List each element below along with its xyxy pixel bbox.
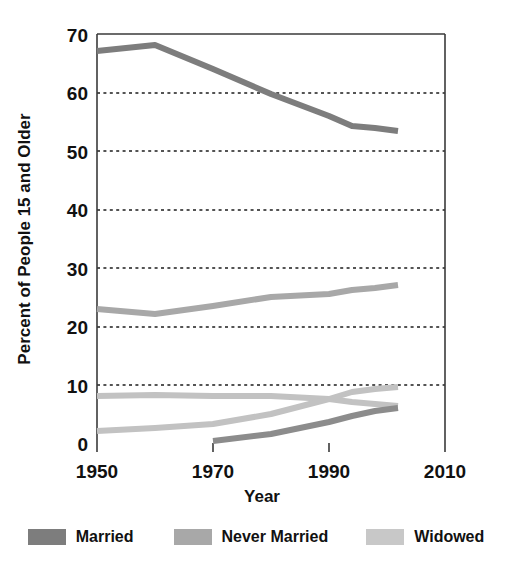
- legend-swatch-never-married: [174, 529, 212, 545]
- legend-swatch-married: [28, 529, 66, 545]
- y-tick-label: 50: [67, 142, 88, 163]
- y-axis-title: Percent of People 15 and Older: [15, 113, 34, 365]
- y-tick-label: 60: [67, 83, 88, 104]
- legend-item-married: Married: [28, 528, 134, 546]
- series-line-widowed: [97, 395, 398, 406]
- x-axis-ticks: [97, 443, 445, 452]
- legend-swatch-widowed: [366, 529, 404, 545]
- y-tick-label: 20: [67, 317, 88, 338]
- y-axis-tick-labels: 70 60 50 40 30 20 10 0: [67, 25, 88, 455]
- x-tick-label: 1950: [76, 461, 118, 482]
- series-line-married: [97, 45, 398, 131]
- x-tick-label: 1990: [308, 461, 350, 482]
- y-tick-label: 10: [67, 376, 88, 397]
- y-tick-label: 70: [67, 25, 88, 46]
- chart-legend: Married Never Married Widowed: [0, 512, 512, 561]
- series-line-never-married: [97, 285, 398, 314]
- legend-label-married: Married: [76, 528, 134, 546]
- x-tick-label: 2010: [424, 461, 466, 482]
- legend-label-never-married: Never Married: [222, 528, 329, 546]
- chart-svg: 70 60 50 40 30 20 10 0: [0, 0, 512, 510]
- y-tick-label: 0: [77, 434, 88, 455]
- legend-item-widowed: Widowed: [366, 528, 484, 546]
- x-axis-tick-labels: 1950 1970 1990 2010: [76, 461, 466, 482]
- marital-status-line-chart: 70 60 50 40 30 20 10 0: [0, 0, 512, 561]
- series-line-separated: [213, 408, 398, 441]
- gridlines: [97, 93, 445, 385]
- legend-item-never-married: Never Married: [174, 528, 329, 546]
- series-group: [97, 45, 398, 441]
- x-axis-title: Year: [244, 487, 280, 506]
- x-tick-label: 1970: [192, 461, 234, 482]
- y-tick-label: 30: [67, 259, 88, 280]
- legend-label-widowed: Widowed: [414, 528, 484, 546]
- y-tick-label: 40: [67, 200, 88, 221]
- chart-plot-region: 70 60 50 40 30 20 10 0: [0, 0, 512, 510]
